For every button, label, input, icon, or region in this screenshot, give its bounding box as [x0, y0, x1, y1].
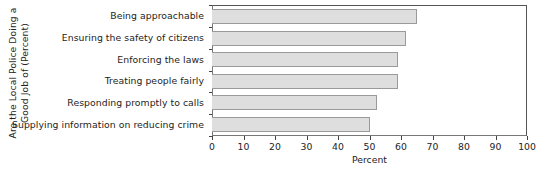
bars-layer	[213, 6, 526, 135]
category-axis-labels: Being approachableEnsuring the safety of…	[36, 5, 208, 136]
x-tick-mark	[307, 136, 308, 140]
bar	[212, 95, 377, 110]
x-tick-mark	[370, 136, 371, 140]
category-label: Being approachable	[110, 11, 208, 21]
x-tick-mark	[212, 136, 213, 140]
x-tick-label: 40	[332, 141, 344, 153]
x-tick-label: 0	[209, 141, 215, 153]
x-tick-label: 90	[490, 141, 502, 153]
x-tick-mark	[275, 136, 276, 140]
bar-row	[213, 31, 526, 46]
bar	[212, 31, 406, 46]
category-label: Treating people fairly	[105, 76, 208, 86]
category-label: Ensuring the safety of citizens	[62, 33, 208, 43]
x-tick-label: 10	[238, 141, 250, 153]
bar-chart-figure: Are the Local Police Doing a Good Job of…	[0, 0, 540, 171]
bar	[212, 9, 417, 24]
x-tick-mark	[401, 136, 402, 140]
x-tick-mark	[496, 136, 497, 140]
category-label: Supplying information on reducing crime	[12, 120, 208, 130]
x-axis-title: Percent	[212, 154, 527, 165]
bar	[212, 52, 398, 67]
x-tick-label: 60	[395, 141, 407, 153]
x-tick-mark	[244, 136, 245, 140]
x-axis-tick-labels: 0102030405060708090100	[212, 141, 527, 154]
category-label: Enforcing the laws	[117, 55, 208, 65]
x-tick-label: 80	[458, 141, 470, 153]
x-tick-label: 100	[518, 141, 536, 153]
bar	[212, 117, 370, 132]
bar-row	[213, 95, 526, 110]
x-tick-mark	[433, 136, 434, 140]
bar-row	[213, 117, 526, 132]
plot-area	[212, 5, 527, 136]
bar	[212, 74, 398, 89]
x-tick-mark	[464, 136, 465, 140]
x-tick-mark	[527, 136, 528, 140]
bar-row	[213, 52, 526, 67]
x-tick-mark	[338, 136, 339, 140]
x-tick-label: 30	[301, 141, 313, 153]
bar-row	[213, 74, 526, 89]
category-label: Responding promptly to calls	[67, 98, 208, 108]
x-tick-label: 50	[364, 141, 376, 153]
x-tick-label: 20	[269, 141, 281, 153]
x-tick-label: 70	[427, 141, 439, 153]
bar-row	[213, 9, 526, 24]
